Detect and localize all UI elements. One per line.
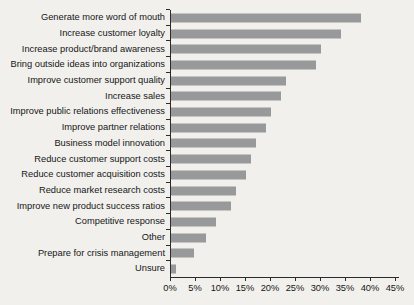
bar-track	[170, 214, 397, 230]
category-label: Improve customer support quality	[0, 76, 170, 85]
category-label: Prepare for crisis management	[0, 249, 170, 258]
category-label: Business model innovation	[0, 139, 170, 148]
chart-row: Generate more word of mouth	[0, 10, 397, 26]
x-axis-tick	[170, 278, 171, 281]
x-axis-tick-label: 25%	[286, 283, 305, 293]
y-axis-tick	[166, 260, 170, 261]
category-label: Reduce customer acquisition costs	[0, 170, 170, 179]
bar	[171, 170, 246, 179]
bar-chart-figure: Generate more word of mouthIncrease cust…	[0, 0, 414, 305]
bar-track	[170, 136, 397, 152]
category-label: Reduce market research costs	[0, 186, 170, 195]
chart-row: Improve public relations effectiveness	[0, 104, 397, 120]
bar-track	[170, 230, 397, 246]
bar	[171, 29, 341, 38]
chart-row: Reduce customer acquisition costs	[0, 167, 397, 183]
category-label: Increase product/brand awareness	[0, 45, 170, 54]
bar	[171, 233, 206, 242]
bar	[171, 186, 236, 195]
chart-row: Prepare for crisis management	[0, 246, 397, 262]
category-label: Improve public relations effectiveness	[0, 107, 170, 116]
bar-chart-rows: Generate more word of mouthIncrease cust…	[0, 10, 397, 277]
chart-row: Increase customer loyalty	[0, 26, 397, 42]
bar-track	[170, 246, 397, 262]
x-axis-tick	[295, 278, 296, 281]
y-axis-tick	[166, 229, 170, 230]
y-axis-tick	[166, 72, 170, 73]
y-axis-tick	[166, 119, 170, 120]
x-axis-tick	[345, 278, 346, 281]
chart-row: Increase sales	[0, 89, 397, 105]
category-label: Reduce customer support costs	[0, 155, 170, 164]
bar-track	[170, 41, 397, 57]
x-axis-tick-label: 5%	[188, 283, 201, 293]
bar-track	[170, 10, 397, 26]
chart-row: Competitive response	[0, 214, 397, 230]
bar	[171, 249, 194, 258]
chart-row: Business model innovation	[0, 136, 397, 152]
bar-track	[170, 57, 397, 73]
x-axis-tick	[220, 278, 221, 281]
y-axis-tick	[166, 135, 170, 136]
bar	[171, 13, 361, 22]
bar-track	[170, 198, 397, 214]
category-label: Generate more word of mouth	[0, 13, 170, 22]
chart-row: Reduce customer support costs	[0, 151, 397, 167]
x-axis-tick-label: 45%	[386, 283, 405, 293]
chart-row: Improve partner relations	[0, 120, 397, 136]
x-axis-tick	[320, 278, 321, 281]
category-label: Other	[0, 233, 170, 242]
y-axis-tick	[166, 88, 170, 89]
y-axis-tick	[166, 166, 170, 167]
bar-track	[170, 261, 397, 277]
x-axis-tick-label: 30%	[311, 283, 330, 293]
chart-row: Unsure	[0, 261, 397, 277]
bar	[171, 123, 266, 132]
x-axis-tick	[370, 278, 371, 281]
bar	[171, 76, 286, 85]
x-axis: 0%5%10%15%20%25%30%35%40%45%	[170, 277, 399, 300]
chart-row: Reduce market research costs	[0, 183, 397, 199]
x-axis-tick-label: 35%	[336, 283, 355, 293]
x-axis-tick	[395, 278, 396, 281]
bar	[171, 60, 316, 69]
chart-row: Bring outside ideas into organizations	[0, 57, 397, 73]
bar	[171, 217, 216, 226]
y-axis-tick	[166, 245, 170, 246]
bar	[171, 202, 231, 211]
category-label: Competitive response	[0, 217, 170, 226]
x-axis-tick-label: 40%	[361, 283, 380, 293]
y-axis-tick	[166, 25, 170, 26]
y-axis-tick	[166, 213, 170, 214]
bar-track	[170, 26, 397, 42]
bar	[171, 155, 251, 164]
chart-row: Other	[0, 230, 397, 246]
bar	[171, 265, 176, 274]
y-axis-tick	[166, 40, 170, 41]
chart-row: Improve new product success ratios	[0, 198, 397, 214]
category-label: Improve partner relations	[0, 123, 170, 132]
bar	[171, 92, 281, 101]
bar-track	[170, 104, 397, 120]
bar	[171, 139, 256, 148]
bar	[171, 108, 271, 117]
category-label: Increase customer loyalty	[0, 29, 170, 38]
y-axis-tick	[166, 103, 170, 104]
bar-track	[170, 151, 397, 167]
bar-track	[170, 120, 397, 136]
category-label: Increase sales	[0, 92, 170, 101]
x-axis-tick	[195, 278, 196, 281]
x-axis-tick-label: 0%	[163, 283, 176, 293]
x-axis-tick	[245, 278, 246, 281]
x-axis-tick-label: 15%	[236, 283, 255, 293]
bar-track	[170, 89, 397, 105]
bar-track	[170, 183, 397, 199]
x-axis-tick-label: 10%	[211, 283, 230, 293]
chart-row: Increase product/brand awareness	[0, 41, 397, 57]
x-axis-tick	[270, 278, 271, 281]
category-label: Improve new product success ratios	[0, 202, 170, 211]
category-label: Unsure	[0, 264, 170, 273]
category-label: Bring outside ideas into organizations	[0, 60, 170, 69]
bar-track	[170, 73, 397, 89]
y-axis-tick	[166, 56, 170, 57]
